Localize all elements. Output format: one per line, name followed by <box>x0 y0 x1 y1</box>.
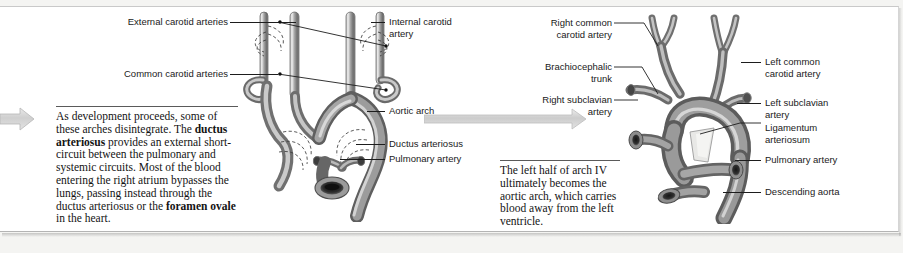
label-ductus-arteriosus: Ductus arteriosus <box>389 138 479 150</box>
leader-pulmonary-artery-2 <box>735 160 761 161</box>
leader-internal-carotid <box>371 22 385 23</box>
label-pulmonary-artery-2: Pulmonary artery <box>765 154 865 166</box>
label-left-common-carotid-artery: Left common carotid artery <box>765 56 860 79</box>
label-right-subclavian-artery: Right subclavian artery <box>502 94 612 117</box>
figure-root: External carotid arteries Common carotid… <box>0 0 903 253</box>
label-brachiocephalic-trunk: Brachiocephalic trunk <box>502 61 612 84</box>
caption-text-run-bold: foramen ovale <box>166 200 236 212</box>
leader-left-subclavian <box>737 103 761 104</box>
label-common-carotid-arteries: Common carotid arteries <box>88 68 228 80</box>
page-card-edge-shadow <box>899 8 902 236</box>
caption-text-run: As development proceeds, some of these a… <box>56 110 217 135</box>
stage-arrow-incoming <box>0 106 36 136</box>
label-pulmonary-artery: Pulmonary artery <box>389 153 479 165</box>
label-descending-aorta: Descending aorta <box>765 186 865 198</box>
page-card-shadow <box>2 233 901 237</box>
caption-text-run: The left half of arch IV ultimately beco… <box>500 164 616 227</box>
label-right-common-carotid-artery: Right common carotid artery <box>502 17 612 40</box>
leader-aortic-arch <box>367 111 385 112</box>
leader-pulmonary-artery <box>340 159 385 160</box>
caption-fetal-arches: As development proceeds, some of these a… <box>56 106 238 225</box>
leader-common-carotid <box>230 74 278 75</box>
leader-descending-aorta <box>723 192 761 193</box>
label-left-subclavian-artery: Left subclavian artery <box>765 97 860 120</box>
leader-left-common-carotid <box>741 62 761 63</box>
caption-text-run: in the heart. <box>56 212 111 224</box>
leader-diagonals-panel1 <box>278 16 398 96</box>
label-external-carotid-arteries: External carotid arteries <box>88 16 228 28</box>
label-internal-carotid-artery: Internal carotid artery <box>389 16 469 39</box>
label-ligamentum-arteriosum: Ligamentum arteriosum <box>765 122 860 145</box>
leader-lines-panel2-left <box>614 16 666 116</box>
leader-ligamentum-arteriosum <box>700 118 762 140</box>
caption-adult-arch: The left half of arch IV ultimately beco… <box>500 160 620 228</box>
leader-ductus-arteriosus <box>356 144 385 145</box>
